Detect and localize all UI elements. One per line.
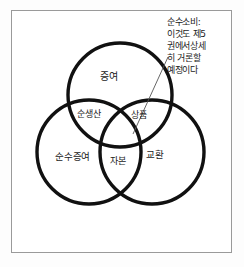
annotation-line: 권에서상세 [167,41,225,53]
intersection-label-center: 자본 [110,157,126,166]
intersection-label-top-right: 상품 [131,111,147,120]
annotation-note: 순수소비: 이것도 제5 권에서상세 히 거론할 예정이다 [167,17,225,76]
intersection-label-top-left: 순생산 [77,110,100,119]
annotation-line: 예정이다 [167,65,225,77]
annotation-line: 이것도 제5 [167,29,225,41]
annotation-line: 히 거론할 [167,53,225,65]
circle-label-top: 증여 [100,72,118,83]
circle-label-right: 교환 [146,150,164,160]
circle-label-left: 순수증여 [55,152,90,162]
circle-top [68,43,172,147]
annotation-line: 순수소비: [167,17,225,29]
venn-diagram-figure: 증여 순생산 상품 순수증여 자본 교환 순수소비: 이것도 제5 권에서상세 … [0,0,244,267]
